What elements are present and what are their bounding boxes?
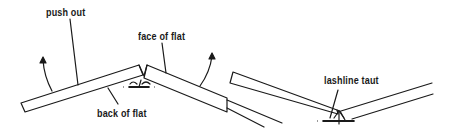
flats-lashing-diagram xyxy=(0,0,454,138)
leader-back-of-flat xyxy=(108,88,118,104)
label-face-of-flat: face of flat xyxy=(138,30,185,42)
lash-cleat-right-icon xyxy=(318,111,360,131)
right-flat-a-extra-2 xyxy=(227,108,264,127)
right-flat-b-bottom xyxy=(352,94,433,119)
push-out-arrow-left xyxy=(43,60,52,91)
leader-face-of-flat xyxy=(162,43,166,73)
right-flat-b-top xyxy=(341,83,432,111)
arrow-head-left-icon xyxy=(40,57,46,63)
arrow-head-right-icon xyxy=(209,53,215,59)
push-out-arrow-right xyxy=(200,56,212,86)
leader-push-out xyxy=(70,19,78,85)
right-flat-a-extra-1 xyxy=(227,100,282,123)
label-lashline-taut: lashline taut xyxy=(324,74,379,86)
label-back-of-flat: back of flat xyxy=(97,107,147,119)
label-push-out: push out xyxy=(46,6,85,18)
left-flat-b xyxy=(144,65,227,112)
lash-cleat-left-icon xyxy=(124,80,155,99)
